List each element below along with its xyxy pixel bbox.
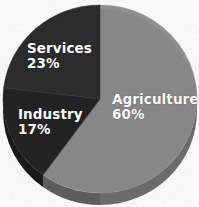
pie-chart-graphic [0,0,199,207]
pie-chart: Agriculture 60% Services 23% Industry 17… [0,0,199,207]
scan-grain [0,0,199,207]
